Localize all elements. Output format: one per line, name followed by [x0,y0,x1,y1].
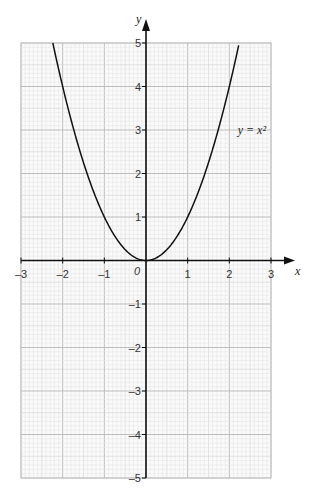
y-tick-label: –5 [129,472,141,484]
x-tick-label: –1 [98,268,110,280]
y-axis-label: y [135,12,142,26]
x-tick-label: –2 [57,268,69,280]
y-tick-label: –1 [129,298,141,310]
y-tick-label: 1 [135,211,141,223]
y-tick-label: 3 [135,124,141,136]
y-tick-label: 4 [135,81,141,93]
y-tick-label: 5 [135,37,141,49]
x-tick-label: 2 [226,268,232,280]
y-axis-arrow-icon [142,19,150,31]
y-tick-label: –4 [129,429,141,441]
x-axis-arrow-icon [284,257,295,265]
x-tick-label: –3 [15,268,27,280]
x-tick-label: 1 [185,268,191,280]
origin-label: 0 [134,265,141,277]
y-tick-label: 2 [135,168,141,180]
y-tick-label: –2 [129,342,141,354]
curve-label: y = x² [237,123,267,137]
x-axis-label: x [294,264,301,278]
parabola-chart: –3–2–11230–5–4–3–2–112345xyy = x² [0,0,312,502]
x-tick-label: 3 [268,268,274,280]
y-tick-label: –3 [129,385,141,397]
